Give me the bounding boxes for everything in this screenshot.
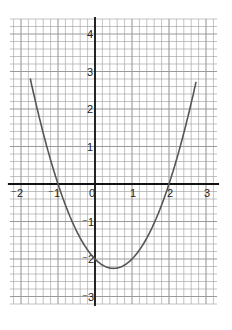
y-tick-label: ⁻1 xyxy=(82,216,94,228)
x-tick-label: ⁻2 xyxy=(11,187,23,199)
y-tick-label: 4 xyxy=(87,28,93,40)
y-tick-label: 3 xyxy=(87,66,93,78)
graph-plot: ⁻2⁻10123⁻3⁻2⁻11234 xyxy=(0,0,232,330)
x-tick-label: 3 xyxy=(204,187,210,199)
x-tick-label: 1 xyxy=(130,187,136,199)
y-tick-label: 1 xyxy=(87,141,93,153)
y-tick-label: 2 xyxy=(87,103,93,115)
x-tick-label: 0 xyxy=(89,187,95,199)
parabola-curve xyxy=(30,79,196,269)
x-tick-label: ⁻1 xyxy=(48,187,60,199)
y-tick-label: ⁻3 xyxy=(82,291,94,303)
